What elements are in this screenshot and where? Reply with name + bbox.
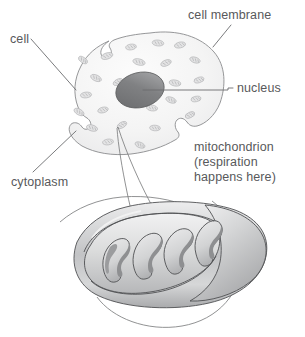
- label-mitochondrion-line3: happens here): [194, 170, 276, 184]
- label-mitochondrion-line1: mitochondrion: [194, 140, 274, 154]
- cell-diagram-figure: cell cell membrane nucleus cytoplasm mit…: [0, 0, 305, 337]
- diagram-canvas: cell cell membrane nucleus cytoplasm mit…: [0, 0, 305, 337]
- leader-line-cell-membrane: [213, 25, 231, 47]
- leader-line-cell: [31, 39, 76, 90]
- leader-line-cytoplasm: [33, 131, 76, 172]
- label-cell-membrane: cell membrane: [188, 8, 271, 22]
- label-cell: cell: [10, 32, 29, 46]
- mitochondrion-diagram: [74, 202, 267, 308]
- label-nucleus: nucleus: [237, 81, 281, 95]
- label-cytoplasm: cytoplasm: [11, 175, 68, 189]
- label-mitochondrion-line2: (respiration: [194, 155, 258, 169]
